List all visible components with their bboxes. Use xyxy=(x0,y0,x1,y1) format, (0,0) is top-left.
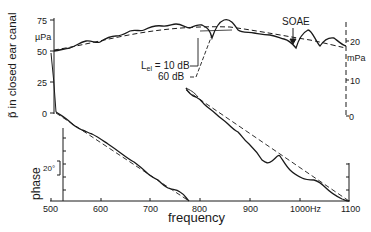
left-tick-50: 50 xyxy=(37,47,47,57)
x-tick-600: 600 xyxy=(93,204,108,214)
y-axis-title-phase: phase xyxy=(29,167,43,200)
phase-curve-60db-branch2 xyxy=(186,90,349,201)
x-tick-1100: 1100 xyxy=(341,204,360,214)
right-tick-0: 0 xyxy=(349,112,354,122)
60db-label: 60 dB xyxy=(158,71,184,82)
x-axis-title: frequency xyxy=(168,210,226,225)
right-tick-10: 10 xyxy=(350,76,360,86)
amplitude-curve-60db-overlay xyxy=(200,30,232,31)
soae-arrow xyxy=(290,28,296,44)
phase-curve-10db-branch1 xyxy=(56,112,189,201)
chart: p̃ in closed ear canal phase 75 µPa 50 2… xyxy=(0,0,371,232)
y-axis-title-amplitude: p̃ in closed ear canal xyxy=(6,13,18,118)
left-tick-0: 0 xyxy=(42,109,47,119)
x-tick-hz: Hz xyxy=(310,204,321,214)
right-unit: mPa xyxy=(347,53,366,63)
left-unit: µPa xyxy=(35,32,51,42)
soae-label: SOAE xyxy=(282,16,310,27)
right-amplitude-axis xyxy=(346,22,349,116)
x-tick-900: 900 xyxy=(243,204,258,214)
phase-scale-label: 20° xyxy=(43,164,55,173)
x-tick-700: 700 xyxy=(143,204,158,214)
left-tick-75: 75 xyxy=(37,16,47,26)
right-tick-20: 20 xyxy=(350,37,360,47)
x-axis xyxy=(50,198,350,201)
left-tick-25: 25 xyxy=(37,78,47,88)
phase-curve-10db-branch2 xyxy=(186,88,349,201)
phase-axis xyxy=(57,128,66,201)
leader-lines xyxy=(190,35,212,77)
x-tick-500: 500 xyxy=(43,204,58,214)
phase-right-ticks xyxy=(346,163,349,201)
amplitude-curve-60db xyxy=(54,27,346,50)
x-tick-1000: 1000 xyxy=(290,204,310,214)
